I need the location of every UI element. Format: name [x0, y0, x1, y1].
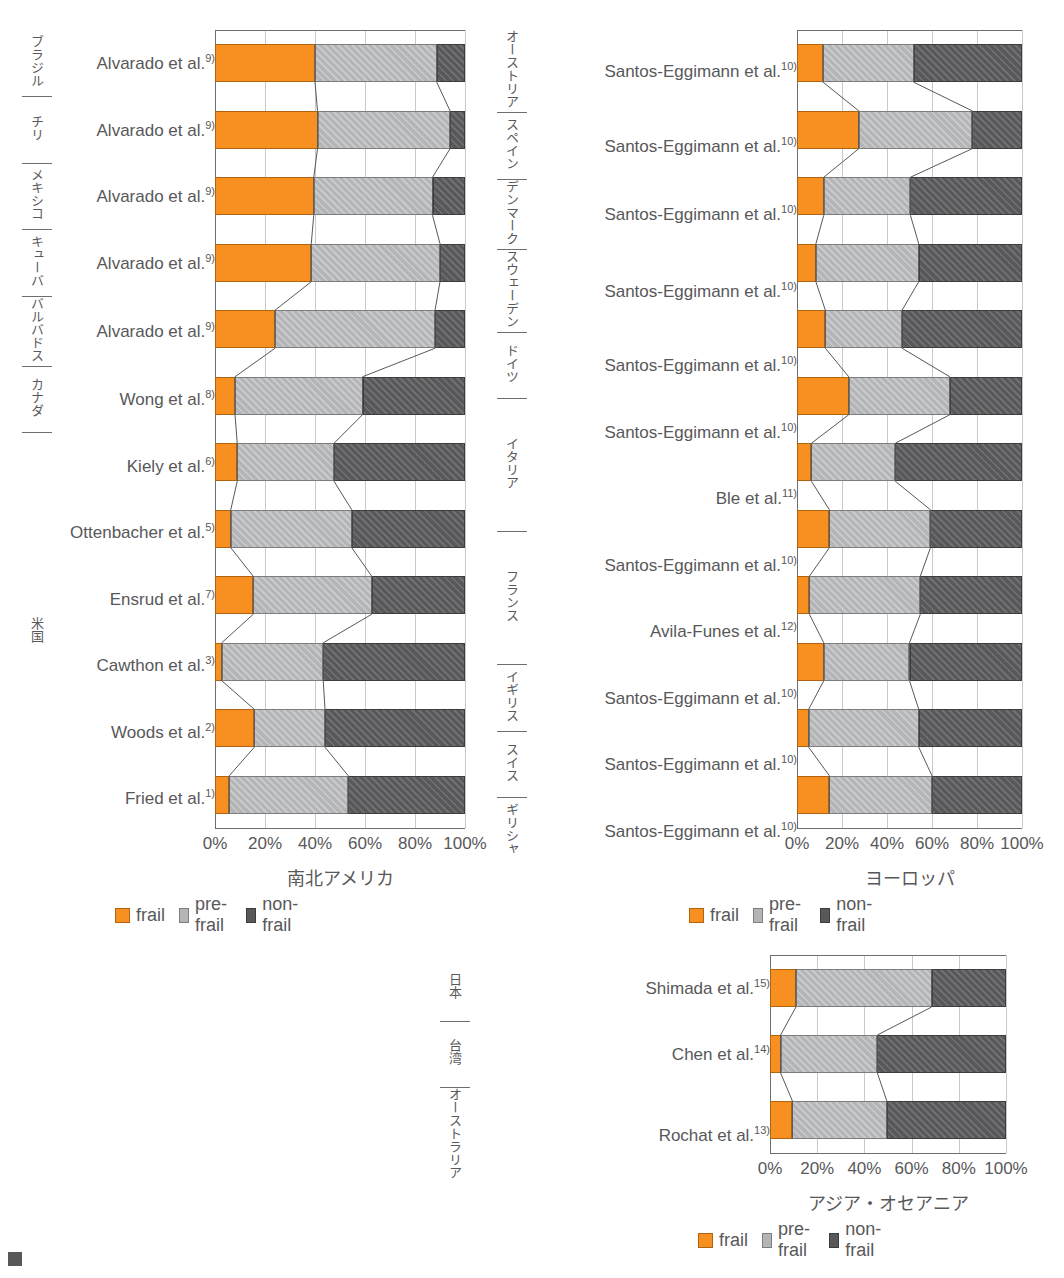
country-cell: ドイツ: [497, 332, 527, 399]
bar-segment-non-frail: [930, 510, 1022, 548]
study-reference: 10): [781, 354, 797, 366]
table-row: ブラジルAlvarado et al.9): [22, 30, 215, 97]
study-name: Alvarado et al.: [97, 254, 206, 273]
plot-top-border: [215, 30, 465, 31]
bar-segment-non-frail: [920, 576, 1022, 614]
row-label-table: オーストリアSantos-Eggimann et al.10)スペインSanto…: [497, 30, 797, 864]
legend-item-pre-frail: pre-frail: [753, 894, 806, 936]
bar-segment-frail: [770, 969, 796, 1007]
chart-title: アジア・オセアニア: [770, 1189, 1006, 1215]
study-name: Santos-Eggimann et al.: [604, 755, 781, 774]
plot-top-border: [797, 30, 1022, 31]
bar-segment-non-frail: [323, 643, 465, 681]
bar-segment-non-frail: [334, 443, 465, 481]
bar-segment-non-frail: [435, 310, 465, 348]
bar-segment-frail: [797, 709, 809, 747]
table-row: 日本Shimada et al.15): [440, 955, 770, 1021]
stacked-bar: [797, 576, 1022, 614]
page-corner-mark: [8, 1252, 22, 1266]
study-reference: 8): [205, 388, 215, 400]
study-label: Ensrud et al.7): [52, 566, 215, 633]
connector-path-pre-frail: [323, 44, 450, 814]
country-cell: カナダ: [22, 366, 52, 433]
study-reference: 2): [205, 721, 215, 733]
stacked-bar: [797, 177, 1022, 215]
chart-title: ヨーロッパ: [797, 864, 1022, 890]
bar-segment-pre-frail: [809, 576, 920, 614]
country-cell: メキシコ: [22, 163, 52, 230]
legend-item-frail: frail: [698, 1230, 748, 1251]
study-label: Kiely et al.6): [52, 433, 215, 500]
country-label: キューバ: [30, 235, 44, 287]
gridline: [465, 30, 466, 828]
study-reference: 5): [205, 521, 215, 533]
bar-segment-frail: [770, 1101, 792, 1139]
stacked-bar: [215, 443, 465, 481]
bar-segment-pre-frail: [859, 111, 972, 149]
country-label: 米国: [30, 617, 44, 643]
legend-item-non-frail: non-frail: [829, 1219, 886, 1261]
bar-segment-pre-frail: [824, 643, 910, 681]
study-reference: 1): [205, 787, 215, 799]
study-name: Ble et al.: [716, 489, 782, 508]
bar-segment-pre-frail: [315, 44, 437, 82]
study-label: Santos-Eggimann et al.10): [527, 332, 797, 399]
table-row: オーストリアSantos-Eggimann et al.10): [497, 30, 797, 113]
chart-legend: frailpre-frailnon-frail: [115, 894, 303, 936]
x-tick-label: 0%: [785, 834, 810, 854]
study-reference: 10): [781, 135, 797, 147]
x-tick-label: 60%: [895, 1159, 929, 1179]
legend-swatch-prefrail-icon: [762, 1233, 772, 1248]
study-name: Santos-Eggimann et al.: [604, 356, 781, 375]
bar-segment-pre-frail: [318, 111, 451, 149]
bar-segment-frail: [797, 776, 829, 814]
x-tick-label: 20%: [825, 834, 859, 854]
bar-segment-frail: [797, 377, 849, 415]
bar-segment-frail: [770, 1035, 781, 1073]
row-label-table: ブラジルAlvarado et al.9)チリAlvarado et al.9)…: [22, 30, 215, 832]
legend-swatch-frail-icon: [689, 908, 704, 923]
bar-segment-non-frail: [914, 44, 1022, 82]
x-tick-label: 100%: [984, 1159, 1027, 1179]
legend-swatch-prefrail-icon: [753, 908, 763, 923]
connector-path-frail: [809, 44, 859, 814]
study-name: Santos-Eggimann et al.: [604, 137, 781, 156]
bar-segment-pre-frail: [235, 377, 363, 415]
stacked-bar: [215, 510, 465, 548]
bar-segment-non-frail: [372, 576, 465, 614]
study-label: Alvarado et al.9): [52, 296, 215, 366]
country-cell: イタリア: [497, 399, 527, 532]
study-reference: 10): [781, 60, 797, 72]
bar-segment-frail: [215, 643, 222, 681]
table-row: 台湾Chen et al.14): [440, 1021, 770, 1087]
stacked-bar: [215, 177, 465, 215]
bar-segment-non-frail: [440, 244, 465, 282]
table-row: Avila-Funes et al.12): [497, 598, 797, 665]
country-label: イタリア: [505, 437, 519, 489]
bar-segment-non-frail: [972, 111, 1022, 149]
table-row: イタリアSantos-Eggimann et al.10): [497, 399, 797, 466]
legend-swatch-nonfrail-icon: [829, 1233, 839, 1248]
stacked-bar: [215, 244, 465, 282]
study-label: Rochat et al.13): [470, 1087, 770, 1183]
country-cell: 日本: [440, 955, 470, 1021]
legend-item-non-frail: non-frail: [246, 894, 303, 936]
x-axis-ticks: 0%20%40%60%80%100%: [770, 1159, 1006, 1183]
bar-segment-non-frail: [352, 510, 465, 548]
legend-label: frail: [710, 905, 739, 926]
country-label: フランス: [505, 570, 519, 622]
table-row: スイスSantos-Eggimann et al.10): [497, 731, 797, 798]
study-reference: 10): [781, 203, 797, 215]
study-name: Santos-Eggimann et al.: [604, 556, 781, 575]
x-tick-label: 60%: [348, 834, 382, 854]
bar-segment-non-frail: [910, 643, 1023, 681]
study-name: Santos-Eggimann et al.: [604, 423, 781, 442]
country-cell: スイス: [497, 731, 527, 798]
table-row: スウェーデンSantos-Eggimann et al.10): [497, 249, 797, 332]
study-reference: 9): [205, 320, 215, 332]
table-row: カナダWong et al.8): [22, 366, 215, 433]
stacked-bar: [215, 776, 465, 814]
bar-segment-non-frail: [363, 377, 466, 415]
study-label: Santos-Eggimann et al.10): [527, 798, 797, 865]
country-label: ギリシャ: [505, 803, 519, 855]
